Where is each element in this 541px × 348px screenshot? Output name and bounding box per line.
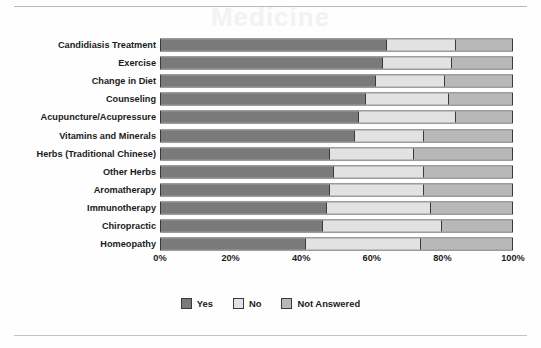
legend-item-na[interactable]: Not Answered: [281, 298, 360, 309]
bar-track: [160, 219, 513, 232]
x-axis-tick-label: 20%: [221, 253, 239, 263]
bar-segment-no: [358, 112, 456, 123]
bar-segment-na: [445, 76, 512, 87]
x-axis: 0%20%40%60%80%100%: [0, 253, 541, 269]
bar-segment-no: [322, 220, 441, 231]
legend-swatch-icon: [181, 298, 192, 309]
bar-segment-yes: [161, 58, 382, 69]
chart-row: Candidiasis Treatment: [0, 36, 541, 54]
bar-track: [160, 238, 513, 251]
bar-segment-yes: [161, 76, 375, 87]
bar-segment-yes: [161, 40, 386, 51]
bar-track: [160, 129, 513, 142]
chart-row: Chiropractic: [0, 217, 541, 235]
bar-segment-na: [431, 202, 512, 213]
bar-segment-na: [442, 220, 512, 231]
bar-track: [160, 39, 513, 52]
chart-rows: Candidiasis TreatmentExerciseChange in D…: [0, 36, 541, 253]
bar-segment-na: [424, 166, 512, 177]
category-label: Change in Diet: [0, 75, 156, 87]
bar-segment-no: [333, 166, 424, 177]
stacked-bar-chart: Candidiasis TreatmentExerciseChange in D…: [0, 0, 541, 348]
chart-row: Homeopathy: [0, 235, 541, 253]
bar-segment-no: [354, 130, 424, 141]
chart-legend: YesNoNot Answered: [0, 298, 541, 309]
bar-segment-yes: [161, 184, 329, 195]
bar-track: [160, 165, 513, 178]
legend-item-yes[interactable]: Yes: [181, 298, 213, 309]
bar-segment-na: [424, 130, 512, 141]
bar-segment-yes: [161, 112, 358, 123]
category-label: Aromatherapy: [0, 184, 156, 196]
bar-segment-na: [452, 58, 512, 69]
bar-segment-na: [421, 239, 512, 250]
x-axis-tick-label: 60%: [363, 253, 381, 263]
x-axis-tick-label: 80%: [433, 253, 451, 263]
chart-row: Vitamins and Minerals: [0, 126, 541, 144]
bar-segment-yes: [161, 202, 326, 213]
legend-label: Not Answered: [297, 298, 360, 309]
bar-track: [160, 57, 513, 70]
chart-row: Counseling: [0, 90, 541, 108]
category-label: Candidiasis Treatment: [0, 39, 156, 51]
category-label: Exercise: [0, 57, 156, 69]
bar-track: [160, 201, 513, 214]
legend-swatch-icon: [233, 298, 244, 309]
page-rule-bottom: [14, 335, 527, 336]
category-label: Counseling: [0, 93, 156, 105]
bar-segment-no: [375, 76, 445, 87]
legend-label: No: [249, 298, 262, 309]
chart-row: Exercise: [0, 54, 541, 72]
bar-segment-na: [449, 94, 512, 105]
bar-segment-no: [365, 94, 449, 105]
bar-segment-na: [456, 112, 512, 123]
chart-row: Aromatherapy: [0, 181, 541, 199]
bar-segment-no: [326, 202, 431, 213]
bar-segment-na: [414, 148, 512, 159]
bar-segment-yes: [161, 166, 333, 177]
legend-swatch-icon: [281, 298, 292, 309]
category-label: Other Herbs: [0, 166, 156, 178]
x-axis-tick-label: 40%: [292, 253, 310, 263]
bar-segment-no: [382, 58, 452, 69]
bar-segment-no: [329, 148, 413, 159]
legend-label: Yes: [197, 298, 213, 309]
bar-segment-no: [305, 239, 421, 250]
bar-segment-na: [456, 40, 512, 51]
chart-row: Change in Diet: [0, 72, 541, 90]
bar-segment-na: [424, 184, 512, 195]
chart-row: Acupuncture/Acupressure: [0, 108, 541, 126]
category-label: Immunotherapy: [0, 202, 156, 214]
chart-row: Other Herbs: [0, 163, 541, 181]
bar-segment-yes: [161, 239, 305, 250]
x-axis-tick-label: 0%: [153, 253, 166, 263]
bar-track: [160, 93, 513, 106]
bar-segment-no: [329, 184, 424, 195]
category-label: Homeopathy: [0, 238, 156, 250]
category-label: Herbs (Traditional Chinese): [0, 148, 156, 160]
bar-segment-yes: [161, 220, 322, 231]
legend-item-no[interactable]: No: [233, 298, 262, 309]
chart-row: Immunotherapy: [0, 199, 541, 217]
category-label: Vitamins and Minerals: [0, 130, 156, 142]
bar-segment-yes: [161, 130, 354, 141]
bar-track: [160, 183, 513, 196]
bar-track: [160, 75, 513, 88]
chart-row: Herbs (Traditional Chinese): [0, 145, 541, 163]
bar-segment-no: [386, 40, 456, 51]
figure-container: Medicine Candidiasis TreatmentExerciseCh…: [0, 0, 541, 348]
x-axis-tick-label: 100%: [501, 253, 525, 263]
bar-track: [160, 111, 513, 124]
bar-track: [160, 147, 513, 160]
category-label: Chiropractic: [0, 220, 156, 232]
bar-segment-yes: [161, 94, 365, 105]
category-label: Acupuncture/Acupressure: [0, 111, 156, 123]
bar-segment-yes: [161, 148, 329, 159]
